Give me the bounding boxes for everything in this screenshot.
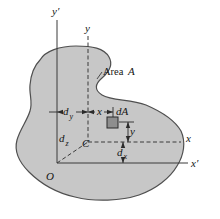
area-shape bbox=[16, 46, 184, 200]
dA-element-label: dA bbox=[116, 105, 129, 117]
centroid-label: C bbox=[82, 137, 90, 149]
y-prime-axis-label: y′ bbox=[51, 5, 60, 17]
parallel-axis-theorem-figure: y′ y Area A d y x dA y C d z d x O x x′ bbox=[0, 0, 220, 219]
figure-canvas: y′ y Area A d y x dA y C d z d x O x x′ bbox=[0, 0, 220, 219]
dx-label-subscript: x bbox=[123, 152, 128, 161]
dA-element-square bbox=[107, 117, 118, 128]
area-word-label: Area bbox=[103, 66, 124, 77]
area-symbol-label: A bbox=[127, 65, 135, 77]
dy-label-subscript: y bbox=[69, 112, 74, 121]
dy-label: d bbox=[63, 105, 69, 117]
dz-label: d bbox=[59, 132, 65, 144]
x-offset-label: x bbox=[96, 105, 102, 117]
x-prime-axis-label: x′ bbox=[190, 157, 199, 169]
origin-label: O bbox=[46, 170, 54, 182]
y-centroidal-axis-label: y bbox=[84, 22, 90, 34]
x-centroidal-axis-label: x bbox=[185, 132, 191, 144]
y-offset-label: y bbox=[129, 125, 135, 137]
dx-label: d bbox=[117, 146, 123, 158]
